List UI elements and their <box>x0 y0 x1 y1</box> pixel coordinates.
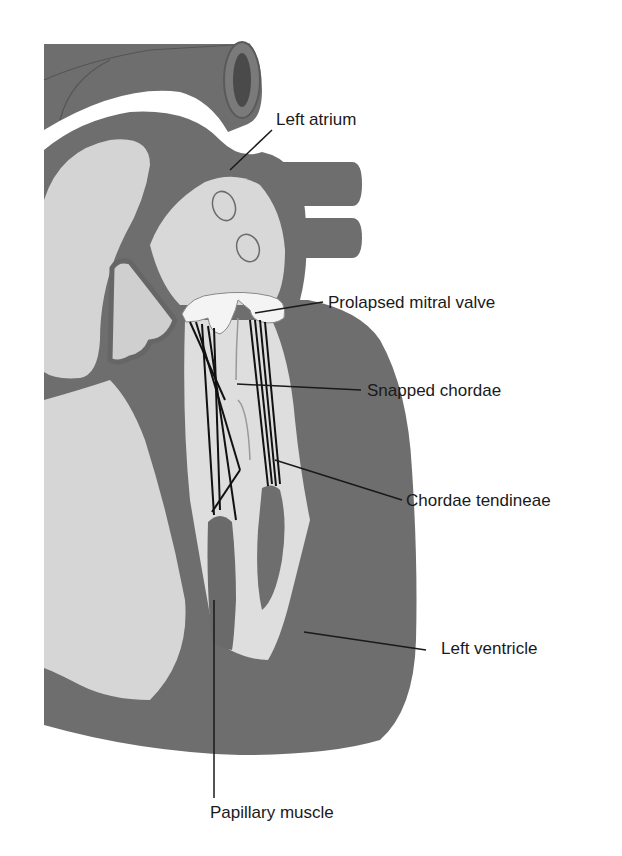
heart-diagram: Left atrium Prolapsed mitral valve Snapp… <box>0 0 622 856</box>
label-papillary-muscle: Papillary muscle <box>210 804 334 821</box>
papillary-muscle-left <box>208 516 237 650</box>
label-chordae-tendineae: Chordae tendineae <box>406 492 551 509</box>
label-prolapsed-mitral-valve: Prolapsed mitral valve <box>328 294 495 311</box>
label-left-ventricle: Left ventricle <box>441 640 537 657</box>
label-left-atrium: Left atrium <box>276 111 356 128</box>
label-snapped-chordae: Snapped chordae <box>367 382 501 399</box>
